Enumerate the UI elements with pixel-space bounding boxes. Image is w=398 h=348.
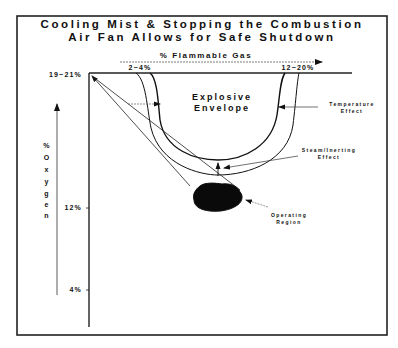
explosive-envelope-label-1: Explosive <box>192 92 252 102</box>
x-axis-label: % Flammable Gas <box>160 51 252 60</box>
svg-text:y: y <box>44 178 49 186</box>
operating-region-label-1: Operating <box>271 212 307 218</box>
operating-region-pointer <box>246 200 268 207</box>
y-axis-label: % O x y g e n <box>43 142 50 219</box>
svg-text:n: n <box>44 212 49 219</box>
y-tick-4: 4% <box>69 286 82 293</box>
svg-text:x: x <box>44 166 49 173</box>
title-line-2: Air Fan Allows for Safe Shutdown <box>68 31 335 43</box>
steam-effect-label-2: Effect <box>318 154 340 160</box>
svg-text:g: g <box>44 190 49 198</box>
upper-flammable-limit: 12~20% <box>281 64 314 71</box>
temperature-effect-label-1: Temperature <box>329 101 374 107</box>
svg-text:e: e <box>44 201 49 208</box>
explosive-envelope-label-2: Envelope <box>194 103 250 113</box>
y-tick-19-21: 19~21% <box>49 71 82 78</box>
operating-region-blob <box>193 183 242 211</box>
explosive-envelope-curve <box>150 73 285 160</box>
svg-text:%: % <box>43 142 50 149</box>
title-line-1: Cooling Mist & Stopping the Combustion <box>40 18 363 30</box>
temperature-effect-label-2: Effect <box>341 108 363 114</box>
lower-flammable-limit: 2~4% <box>129 64 152 71</box>
svg-text:O: O <box>44 154 51 161</box>
operating-region-label-2: Region <box>276 219 301 225</box>
steam-effect-label-1: Steam/Inerting <box>302 147 356 153</box>
air-dilution-line <box>92 76 190 186</box>
flammability-diagram: Cooling Mist & Stopping the Combustion A… <box>0 0 398 348</box>
y-tick-12: 12% <box>64 204 82 211</box>
